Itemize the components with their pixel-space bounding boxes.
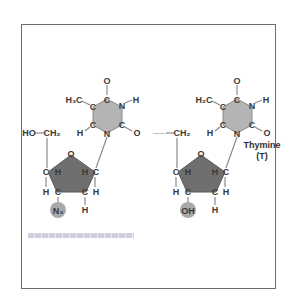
atom: H	[212, 205, 219, 215]
atom: C	[90, 102, 97, 112]
atom: O	[103, 76, 110, 86]
atom: O	[233, 76, 240, 86]
atom: N	[104, 129, 111, 139]
atom: C	[173, 167, 180, 177]
atom: H₂C	[196, 95, 213, 105]
atom: C	[185, 187, 192, 197]
atom: C	[234, 95, 241, 105]
atom: H	[185, 167, 192, 177]
atom: H₃C	[65, 95, 83, 105]
atom: H	[212, 167, 219, 177]
atom: C	[90, 120, 97, 130]
atom: HO	[22, 128, 36, 138]
atom: CH₂	[174, 128, 191, 138]
atom: C	[249, 120, 256, 130]
thymine-label: Thymine	[243, 140, 280, 150]
atom: H	[207, 128, 214, 138]
atom: O	[197, 149, 204, 159]
atom: C	[220, 102, 227, 112]
atom: N	[234, 129, 241, 139]
atom: H	[82, 167, 89, 177]
atom: H	[43, 187, 50, 197]
atom: O	[133, 128, 140, 138]
atom: H	[82, 205, 89, 215]
atom: H	[77, 128, 84, 138]
atom: H	[133, 95, 140, 105]
hydroxyl-group: OH	[181, 206, 195, 216]
atom: O	[263, 128, 270, 138]
backbone-link: ——	[153, 130, 165, 136]
atom: H	[55, 167, 62, 177]
atom: CH₂	[44, 128, 61, 138]
atom: H	[263, 95, 270, 105]
figure-caption	[28, 233, 134, 238]
azido-group: N₃	[53, 206, 64, 216]
atom: C	[212, 187, 219, 197]
atom: H	[223, 187, 230, 197]
atom: C	[220, 120, 227, 130]
atom: C	[55, 187, 62, 197]
atom: H	[93, 187, 100, 197]
atom: C	[43, 167, 50, 177]
atom: H	[173, 187, 180, 197]
atom: C	[223, 167, 230, 177]
azt-molecule: O C N H H₃C C C H N C O HO CH₂ O C H H C…	[22, 76, 140, 218]
atom: C	[104, 95, 111, 105]
atom: N	[249, 101, 256, 111]
atom: C	[93, 167, 100, 177]
chemical-diagram: O C N H H₃C C C H N C O HO CH₂ O C H H C…	[0, 0, 299, 300]
atom: N	[119, 101, 126, 111]
atom: C	[82, 187, 89, 197]
atom: O	[67, 149, 74, 159]
atom: C	[119, 120, 126, 130]
thymine-abbr-label: (T)	[256, 151, 268, 161]
